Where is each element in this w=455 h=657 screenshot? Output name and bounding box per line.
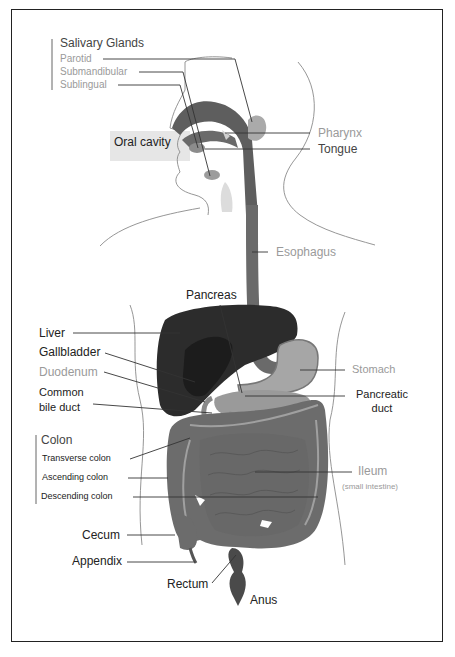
label-liver: Liver <box>39 327 65 339</box>
label-salivary-glands: Salivary Glands <box>60 37 144 49</box>
label-pharynx: Pharynx <box>318 127 362 139</box>
label-stomach: Stomach <box>352 364 395 375</box>
label-pancreatic-duct-line1: Pancreatic <box>352 389 412 400</box>
label-rectum: Rectum <box>167 578 208 590</box>
label-common-bile-duct-line1: Common <box>39 387 84 398</box>
label-pancreatic-duct-line2: duct <box>352 403 412 414</box>
label-ascending-colon: Ascending colon <box>42 473 108 482</box>
digestive-system-illustration <box>0 0 455 657</box>
label-sublingual: Sublingual <box>60 80 107 90</box>
small-intestine-shape <box>200 433 309 536</box>
appendix-shape <box>190 548 196 563</box>
label-anus: Anus <box>250 594 277 606</box>
label-colon: Colon <box>41 434 72 446</box>
label-esophagus: Esophagus <box>276 246 336 258</box>
label-descending-colon: Descending colon <box>41 492 113 501</box>
label-oral-cavity: Oral cavity <box>114 136 171 148</box>
label-parotid: Parotid <box>60 54 92 64</box>
label-cecum: Cecum <box>82 529 120 541</box>
label-appendix: Appendix <box>72 555 122 567</box>
mouth-and-pharynx <box>172 101 266 215</box>
rectum-shape <box>228 548 245 606</box>
label-gallbladder: Gallbladder <box>39 346 100 358</box>
label-common-bile-duct-line2: bile duct <box>39 402 80 413</box>
liver-shadow <box>183 337 232 397</box>
label-submandibular: Submandibular <box>60 67 127 77</box>
label-tongue: Tongue <box>318 143 357 155</box>
label-ileum-note: (small intestine) <box>342 483 398 491</box>
label-ileum: Ileum <box>358 465 387 477</box>
label-transverse-colon: Transverse colon <box>42 454 111 463</box>
label-pancreas: Pancreas <box>186 289 237 301</box>
label-duodenum: Duodenum <box>39 366 98 378</box>
